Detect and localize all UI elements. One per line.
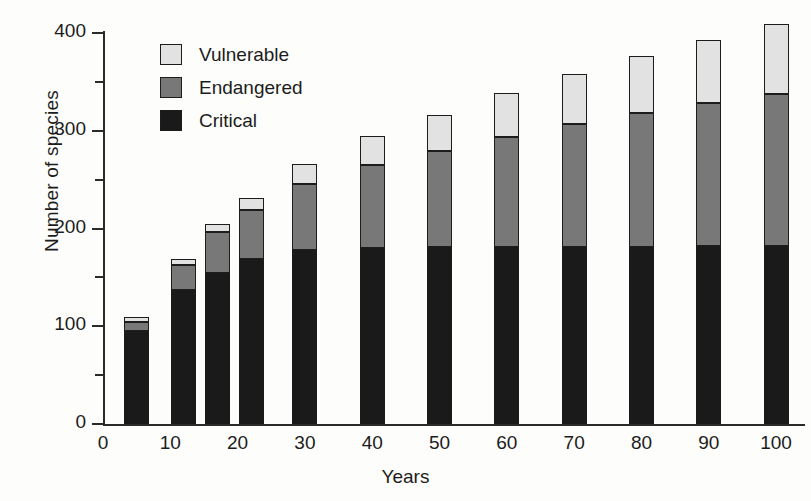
chart-legend: VulnerableEndangeredCritical: [160, 38, 303, 137]
bar-segment-endangered: [360, 165, 385, 248]
bar-segment-critical: [292, 250, 317, 424]
bar-segment-vulnerable: [171, 259, 196, 265]
bar-segment-vulnerable: [124, 317, 149, 322]
bar-segment-endangered: [629, 113, 654, 247]
y-axis-minor-tick: [95, 81, 103, 83]
bar-segment-endangered: [171, 265, 196, 290]
bar-segment-vulnerable: [629, 56, 654, 113]
legend-label: Vulnerable: [199, 44, 289, 66]
x-axis-tick-label: 60: [477, 432, 537, 454]
bar-segment-critical: [764, 246, 789, 424]
bar-stack: [427, 33, 452, 424]
y-axis-minor-tick: [95, 179, 103, 181]
legend-swatch-icon: [160, 77, 182, 98]
bar-stack: [360, 33, 385, 424]
bar-stack: [629, 33, 654, 424]
bar-stack: [764, 33, 789, 424]
bar-stack: [494, 33, 519, 424]
bar-segment-endangered: [562, 124, 587, 247]
bar-stack: [562, 33, 587, 424]
bar-segment-critical: [205, 273, 230, 425]
bar-segment-critical: [360, 248, 385, 424]
legend-item: Endangered: [160, 71, 303, 104]
bar-segment-critical: [629, 247, 654, 424]
bar-segment-vulnerable: [764, 24, 789, 93]
legend-swatch-icon: [160, 44, 182, 65]
bar-segment-endangered: [696, 103, 721, 246]
chart-figure: Number of species Years 0100200300400 01…: [0, 0, 811, 501]
bar-segment-vulnerable: [360, 136, 385, 165]
x-axis-tick-label: 50: [410, 432, 470, 454]
x-axis-tick-label: 100: [746, 432, 806, 454]
x-axis-tick-label: 0: [73, 432, 133, 454]
bar-segment-endangered: [124, 322, 149, 331]
y-axis-major-tick: [92, 423, 103, 425]
bar-stack: [124, 33, 149, 424]
y-axis-major-tick: [92, 228, 103, 230]
bar-segment-critical: [494, 247, 519, 424]
bar-segment-endangered: [292, 184, 317, 250]
bar-segment-vulnerable: [205, 224, 230, 233]
y-axis-major-tick: [92, 130, 103, 132]
legend-label: Endangered: [199, 77, 303, 99]
bar-segment-vulnerable: [696, 40, 721, 104]
x-axis-tick-label: 10: [140, 432, 200, 454]
x-axis-tick-label: 20: [208, 432, 268, 454]
bar-segment-vulnerable: [562, 74, 587, 124]
y-axis-minor-tick: [95, 276, 103, 278]
bar-segment-endangered: [764, 94, 789, 246]
bar-segment-vulnerable: [427, 115, 452, 151]
bar-segment-critical: [696, 246, 721, 424]
bar-segment-critical: [124, 331, 149, 424]
bar-segment-vulnerable: [239, 198, 264, 210]
bar-segment-vulnerable: [494, 93, 519, 137]
bar-stack: [696, 33, 721, 424]
x-axis-tick-label: 40: [342, 432, 402, 454]
legend-label: Critical: [199, 110, 257, 132]
bar-segment-critical: [171, 290, 196, 424]
bar-segment-endangered: [239, 210, 264, 259]
y-axis-minor-tick: [95, 374, 103, 376]
bar-segment-endangered: [494, 137, 519, 247]
x-axis-tick-label: 90: [679, 432, 739, 454]
x-axis-tick-label: 30: [275, 432, 335, 454]
bar-segment-endangered: [427, 151, 452, 247]
bar-segment-endangered: [205, 232, 230, 272]
x-axis-tick-label: 80: [611, 432, 671, 454]
bar-segment-vulnerable: [292, 164, 317, 184]
x-axis-tick-label: 70: [544, 432, 604, 454]
legend-item: Critical: [160, 104, 303, 137]
bar-segment-critical: [239, 259, 264, 424]
bar-segment-critical: [562, 247, 587, 424]
legend-swatch-icon: [160, 110, 182, 131]
y-axis-major-tick: [92, 325, 103, 327]
legend-item: Vulnerable: [160, 38, 303, 71]
bar-segment-critical: [427, 247, 452, 424]
y-axis-major-tick: [92, 32, 103, 34]
